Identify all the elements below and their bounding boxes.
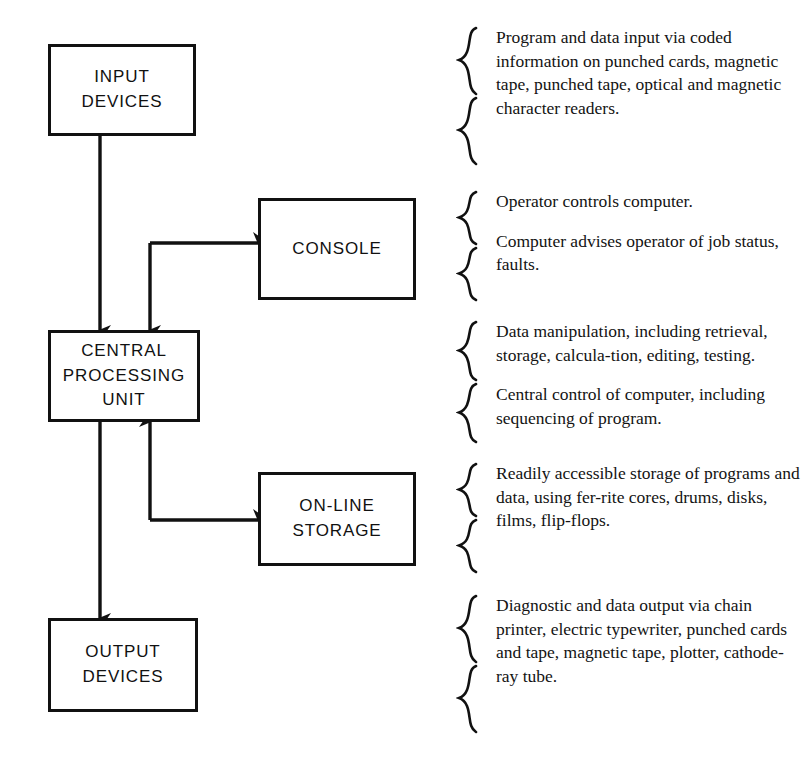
annotation-text-output: Diagnostic and data output via chain pri…: [488, 594, 802, 688]
node-storage-line2: STORAGE: [292, 519, 381, 544]
curly-brace-icon: [456, 246, 482, 302]
node-storage-line1: ON-LINE: [299, 494, 374, 519]
node-cpu-line1: CENTRAL: [81, 339, 167, 364]
node-input-devices-line2: DEVICES: [82, 90, 163, 115]
annotation-text-storage: Readily accessible storage of programs a…: [488, 462, 802, 533]
node-cpu-line2: PROCESSING: [63, 364, 185, 389]
node-output-devices-line2: DEVICES: [83, 665, 164, 690]
brace-column-storage: [450, 462, 488, 533]
annotation-text-console: Operator controls computer. Computer adv…: [488, 190, 802, 277]
brace-stack-output: [456, 594, 482, 734]
block-diagram: INPUT DEVICES CONSOLE CENTRAL PROCESSING…: [0, 0, 802, 764]
node-output-devices[interactable]: OUTPUT DEVICES: [48, 618, 198, 712]
annotation-text-input: Program and data input via coded informa…: [488, 26, 802, 120]
curly-brace-icon: [456, 190, 482, 246]
curly-brace-icon: [456, 462, 482, 518]
node-input-devices-line1: INPUT: [94, 65, 150, 90]
annotation-paragraph: Program and data input via coded informa…: [496, 26, 802, 120]
curly-brace-icon: [456, 26, 482, 96]
annotation-group-input: Program and data input via coded informa…: [450, 26, 802, 120]
flowchart-area: INPUT DEVICES CONSOLE CENTRAL PROCESSING…: [0, 0, 450, 764]
node-central-processing-unit[interactable]: CENTRAL PROCESSING UNIT: [48, 330, 200, 422]
brace-column-input: [450, 26, 488, 120]
annotation-paragraph: Central control of computer, including s…: [496, 383, 802, 430]
annotation-paragraph: Data manipulation, including retrieval, …: [496, 320, 802, 367]
annotation-paragraph: Diagnostic and data output via chain pri…: [496, 594, 802, 688]
node-on-line-storage[interactable]: ON-LINE STORAGE: [258, 472, 416, 566]
curly-brace-icon: [456, 320, 482, 382]
annotation-paragraph: Computer advises operator of job status,…: [496, 230, 802, 277]
annotation-group-cpu: Data manipulation, including retrieval, …: [450, 320, 802, 430]
node-output-devices-line1: OUTPUT: [85, 640, 160, 665]
curly-brace-icon: [456, 382, 482, 444]
curly-brace-icon: [456, 518, 482, 574]
annotation-paragraph: Operator controls computer.: [496, 190, 802, 214]
annotation-paragraph: Readily accessible storage of programs a…: [496, 462, 802, 533]
brace-column-console: [450, 190, 488, 277]
node-input-devices[interactable]: INPUT DEVICES: [48, 44, 196, 136]
node-console-line1: CONSOLE: [292, 237, 381, 262]
annotation-group-storage: Readily accessible storage of programs a…: [450, 462, 802, 533]
annotation-text-cpu: Data manipulation, including retrieval, …: [488, 320, 802, 430]
brace-stack-input: [456, 26, 482, 166]
brace-column-output: [450, 594, 488, 688]
brace-column-cpu: [450, 320, 488, 430]
annotations-area: Program and data input via coded informa…: [450, 0, 802, 764]
node-console[interactable]: CONSOLE: [258, 198, 416, 300]
annotation-group-console: Operator controls computer. Computer adv…: [450, 190, 802, 277]
brace-stack-storage: [456, 462, 482, 574]
curly-brace-icon: [456, 96, 482, 166]
annotation-group-output: Diagnostic and data output via chain pri…: [450, 594, 802, 688]
curly-brace-icon: [456, 594, 482, 664]
curly-brace-icon: [456, 664, 482, 734]
brace-stack-cpu: [456, 320, 482, 444]
brace-stack-console: [456, 190, 482, 302]
node-cpu-line3: UNIT: [102, 388, 145, 413]
